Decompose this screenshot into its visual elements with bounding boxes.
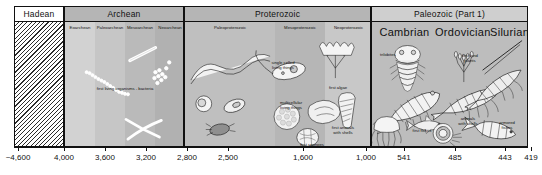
axis-tick: [146, 147, 147, 151]
period-label-ordovician: Ordovician: [435, 26, 490, 38]
annotation-first-algae: first algae: [316, 85, 360, 90]
period-label-silurian: Silurian: [490, 26, 528, 38]
era-header-hadean: Hadean: [14, 6, 64, 22]
era-header-paleozoic: Paleozoic (Part 1): [371, 6, 528, 22]
subera-label-neoproterozoic: Neoproterozoic: [325, 25, 371, 30]
axis-tick: [187, 147, 188, 151]
axis-tick-label: 1,600: [293, 153, 313, 162]
era-panel-hadean: [14, 22, 64, 147]
subera-strip-mesoarchean: [125, 22, 155, 147]
era-panel-archean: Eoarchean Paleoarchean Mesoarchean Neoar…: [64, 22, 184, 147]
era-header-proterozoic: Proterozoic: [184, 6, 371, 22]
axis-tick: [455, 147, 456, 151]
annotation-armored-fishes: armored fishes: [488, 120, 526, 130]
subera-label-paleoproterozoic: Paleoproterozoic: [185, 25, 275, 30]
axis-tick: [505, 147, 506, 151]
axis-tick: [105, 147, 106, 151]
subera-strip-paleoarchean: [95, 22, 125, 147]
annotation-animals-with-shells: animals with shells: [448, 116, 488, 126]
axis-tick-label: 3,200: [136, 153, 156, 162]
era-header-archean: Archean: [64, 6, 184, 22]
subera-strip-paleoproterozoic: [185, 22, 275, 147]
subera-label-paleoarchean: Paleoarchean: [95, 25, 125, 30]
axis-tick-label: 443: [498, 153, 511, 162]
axis-tick: [404, 147, 405, 151]
era-header-label: Paleozoic (Part 1): [414, 9, 485, 19]
axis-tick-label: 4,000: [54, 153, 74, 162]
axis-tick-label: 1,000: [356, 153, 376, 162]
subera-label-mesoproterozoic: Mesoproterozoic: [275, 25, 325, 30]
axis-endcap-left: [14, 143, 15, 148]
annotation-first-land-plants: first land plants: [451, 53, 489, 63]
axis-tick-label: 541: [397, 153, 410, 162]
period-label-cambrian: Cambrian: [372, 26, 437, 38]
annotation-first-living-organisms: first living organisms - bacteria: [75, 86, 175, 91]
axis-tick: [228, 147, 229, 151]
axis-tick: [64, 147, 65, 151]
axis-tick: [366, 147, 367, 151]
axis-tick: [18, 147, 19, 151]
annotation-first-animals-with-shells: first animals with shells: [319, 125, 367, 135]
era-header-label: Archean: [107, 9, 140, 19]
axis-tick: [303, 147, 304, 151]
axis-tick-label: 2,800: [177, 153, 197, 162]
subera-strip-neoarchean: [155, 22, 184, 147]
era-header-label: Proterozoic: [255, 9, 300, 19]
axis-tick: [531, 147, 532, 151]
era-panel-proterozoic: Paleoproterozoic Mesoproterozoic Neoprot…: [184, 22, 371, 147]
era-header-label: Hadean: [24, 9, 55, 19]
annotation-trilobites: trilobites: [380, 52, 412, 57]
geologic-time-scale-figure: Hadean Archean Proterozoic Paleozoic (Pa…: [0, 0, 542, 175]
axis-endcap-right: [527, 143, 528, 148]
annotation-multicellular-living-things: multicellular living things: [265, 100, 317, 110]
axis-tick-label: ~4,600: [6, 153, 31, 162]
axis-tick-label: 419: [524, 153, 537, 162]
subera-label-eoarchean: Eoarchean: [65, 25, 95, 30]
annotation-first-fishes: first fishes: [403, 128, 441, 133]
axis-tick-label: 3,600: [95, 153, 115, 162]
era-panel-paleozoic: Cambrian Ordovician Silurian: [371, 22, 528, 147]
subera-label-mesoarchean: Mesoarchean: [125, 25, 155, 30]
annotation-single-celled-living-things: single celled living things: [257, 60, 309, 70]
subera-label-neoarchean: Neoarchean: [155, 25, 184, 30]
subera-strip-eoarchean: [65, 22, 95, 147]
axis-tick-label: 485: [448, 153, 461, 162]
axis-tick-label: 2,500: [218, 153, 238, 162]
time-axis-line: [14, 147, 528, 148]
